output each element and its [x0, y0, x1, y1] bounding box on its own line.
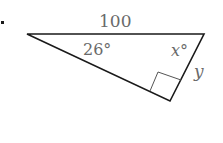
side-y-label: y: [193, 61, 204, 81]
triangle-diagram: 100 26° x° y: [0, 0, 223, 143]
bullet-mark: [1, 21, 4, 24]
angle-x-label: x°: [171, 41, 188, 60]
angle-26-label: 26°: [83, 40, 111, 59]
side-100-label: 100: [99, 11, 131, 31]
